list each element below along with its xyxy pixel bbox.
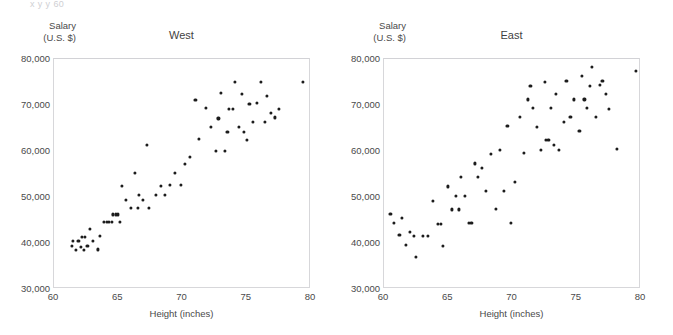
scatter-point <box>565 79 568 82</box>
y-axis-tick-label: 40,000 <box>2 237 50 248</box>
scatter-point <box>502 189 505 192</box>
scatter-point <box>498 148 501 151</box>
scatter-plot-figure: x y y 60 Salary (U.S. $) West 30,00040,0… <box>0 0 673 335</box>
scatter-point <box>118 221 121 224</box>
scatter-point <box>484 189 487 192</box>
scatter-point <box>136 206 139 209</box>
scatter-point <box>607 107 610 110</box>
scatter-point <box>137 194 140 197</box>
scatter-point <box>243 130 246 133</box>
x-axis-tick-label: 70 <box>162 291 202 302</box>
scatter-point <box>480 166 483 169</box>
y-axis-tick-label: 60,000 <box>332 145 380 156</box>
x-axis-tick-label: 80 <box>290 291 330 302</box>
scatter-point <box>237 125 240 128</box>
chart-panel-east: Salary (U.S. $) East 30,00040,00050,0006… <box>330 0 666 335</box>
x-axis-tick-label: 75 <box>556 291 596 302</box>
scatter-point <box>273 116 276 119</box>
scatter-point <box>227 108 230 111</box>
chart-title-west: West <box>53 29 310 41</box>
scatter-point <box>231 108 234 111</box>
x-axis-tick-label: 60 <box>33 291 73 302</box>
y-axis-tick-label: 60,000 <box>2 145 50 156</box>
y-axis-tick-label: 80,000 <box>2 53 50 64</box>
scatter-point <box>513 180 516 183</box>
scatter-point <box>598 84 601 87</box>
scatter-point <box>255 102 258 105</box>
scatter-point <box>615 148 618 151</box>
scatter-point <box>529 84 532 87</box>
scatter-point <box>77 240 80 243</box>
scatter-point <box>110 220 113 223</box>
scatter-point <box>194 98 197 101</box>
scatter-point <box>442 244 445 247</box>
scatter-point <box>248 102 251 105</box>
scatter-point <box>543 80 546 83</box>
scatter-point <box>421 234 424 237</box>
scatter-point <box>302 80 305 83</box>
scatter-point <box>86 245 89 248</box>
scatter-point <box>510 222 513 225</box>
x-axis-tick-label: 80 <box>620 291 660 302</box>
scatter-point <box>591 66 594 69</box>
chart-title-east: East <box>383 29 640 41</box>
scatter-point <box>223 149 226 152</box>
scatter-point <box>535 125 538 128</box>
scatter-point <box>489 153 492 156</box>
scatter-point <box>573 98 576 101</box>
scatter-point <box>266 94 269 97</box>
scatter-point <box>562 120 565 123</box>
scatter-point <box>277 107 280 110</box>
scatter-point <box>263 120 266 123</box>
scatter-point <box>91 240 94 243</box>
y-axis-tick-label: 70,000 <box>332 99 380 110</box>
x-axis-label-west: Height (inches) <box>53 308 310 319</box>
scatter-point <box>398 234 401 237</box>
scatter-point <box>463 194 466 197</box>
scatter-point <box>252 120 255 123</box>
scatter-point <box>400 217 403 220</box>
x-axis-tick-label: 65 <box>97 291 137 302</box>
scatter-point <box>226 130 229 133</box>
scatter-point <box>88 227 91 230</box>
scatter-point <box>549 106 552 109</box>
scatter-point <box>415 255 418 258</box>
scatter-point <box>557 148 560 151</box>
scatter-point <box>555 92 558 95</box>
scatter-point <box>460 176 463 179</box>
scatter-point <box>412 234 415 237</box>
y-axis-tick-label: 50,000 <box>332 191 380 202</box>
scatter-point <box>569 115 572 118</box>
scatter-point <box>217 117 220 120</box>
scatter-point <box>601 79 604 82</box>
scatter-point <box>83 235 86 238</box>
scatter-point <box>634 69 637 72</box>
scatter-point <box>454 194 457 197</box>
scatter-point <box>531 107 534 110</box>
scatter-point <box>147 206 150 209</box>
plot-area-east <box>383 58 640 288</box>
plot-area-west <box>53 58 310 288</box>
scatter-point <box>117 213 120 216</box>
scatter-point <box>404 244 407 247</box>
scatter-point <box>476 176 479 179</box>
scatter-point <box>431 199 434 202</box>
scatter-point <box>214 149 217 152</box>
scatter-point <box>583 98 586 101</box>
scatter-point <box>180 183 183 186</box>
scatter-point <box>121 184 124 187</box>
scatter-point <box>580 74 583 77</box>
scatter-point <box>145 143 148 146</box>
scatter-point <box>130 206 133 209</box>
scatter-point <box>439 222 442 225</box>
scatter-point <box>426 234 429 237</box>
scatter-point <box>163 194 166 197</box>
scatter-point <box>552 143 555 146</box>
scatter-point <box>124 199 127 202</box>
scatter-point <box>522 152 525 155</box>
scatter-point <box>72 240 75 243</box>
x-axis-tick-label: 70 <box>492 291 532 302</box>
scatter-point <box>209 125 212 128</box>
scatter-point <box>240 92 243 95</box>
scatter-point <box>183 162 186 165</box>
